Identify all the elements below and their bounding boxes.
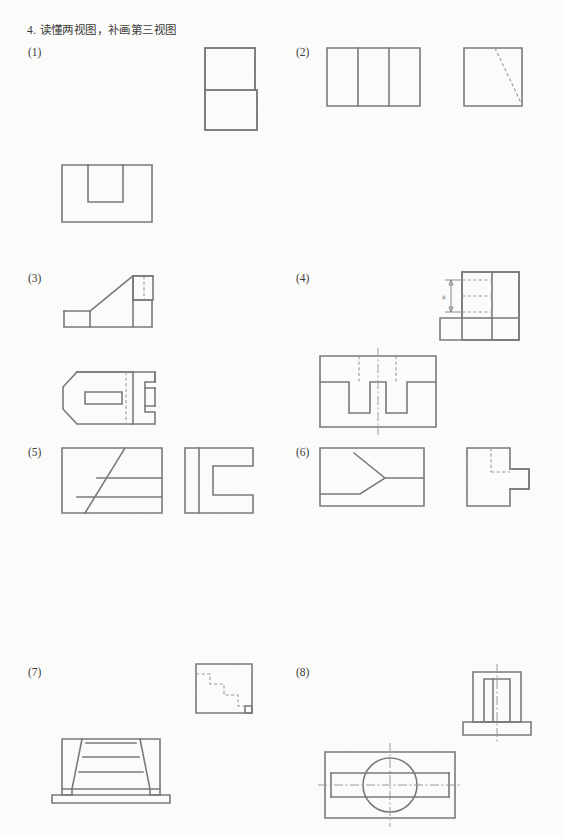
problem-8-figures	[0, 0, 563, 836]
problem-8-side-view	[463, 664, 531, 744]
problem-8-top-view	[318, 743, 462, 827]
